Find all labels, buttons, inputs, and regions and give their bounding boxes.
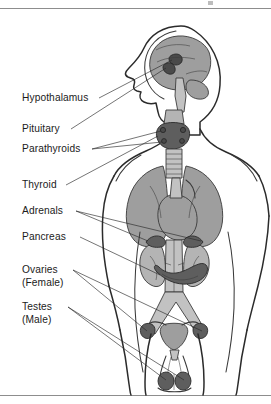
label-ovaries: Ovaries xyxy=(22,264,58,275)
label-parathyroids: Parathyroids xyxy=(22,143,80,154)
endocrine-system-figure: Hypothalamus Pituitary Parathyroids Thyr… xyxy=(0,0,271,404)
label-adrenals: Adrenals xyxy=(22,205,63,216)
larynx xyxy=(164,110,184,124)
label-ovaries-qualifier: (Female) xyxy=(22,277,64,288)
cervix xyxy=(170,350,179,360)
label-testes-qualifier: (Male) xyxy=(22,314,51,325)
thyroid-gland xyxy=(156,123,189,150)
left-testis xyxy=(158,372,174,390)
label-testes: Testes xyxy=(22,301,52,312)
right-testis xyxy=(175,372,191,390)
label-pituitary: Pituitary xyxy=(22,123,61,134)
parathyroid-gland-upper-right xyxy=(180,127,185,132)
label-hypothalamus: Hypothalamus xyxy=(22,92,88,103)
great-vessels xyxy=(170,178,182,198)
parathyroid-gland-lower-left xyxy=(162,139,167,144)
trachea xyxy=(166,149,182,178)
parathyroid-gland-lower-right xyxy=(180,139,185,144)
right-ovary xyxy=(193,323,208,338)
left-ovary xyxy=(140,323,155,338)
label-thyroid: Thyroid xyxy=(22,179,57,190)
scan-artifact xyxy=(208,1,213,5)
label-pancreas: Pancreas xyxy=(22,231,66,242)
parathyroid-gland-upper-left xyxy=(160,127,165,132)
